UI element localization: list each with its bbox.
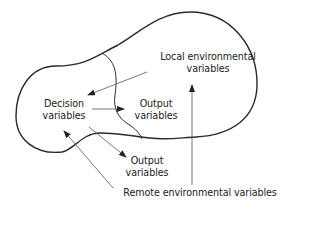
decision-line2: variables	[36, 110, 92, 122]
output-1-line2: variables	[128, 110, 184, 122]
remote-env-label: Remote environmental variables	[114, 187, 286, 199]
output-1-label: Output variables	[128, 98, 184, 122]
output-2-label: Output variables	[119, 155, 175, 179]
output-2-line2: variables	[119, 167, 175, 179]
subsystem-divider	[102, 53, 142, 139]
decision-line1: Decision	[36, 98, 92, 110]
local-env-line1: Local environmental	[148, 51, 268, 63]
local-env-label: Local environmental variables	[148, 51, 268, 75]
arrow-local-to-decision	[88, 72, 147, 95]
local-env-line2: variables	[148, 63, 268, 75]
arrow-remote-to-decision	[64, 131, 113, 188]
arrow-decision-to-output-2	[89, 127, 126, 157]
output-1-line1: Output	[128, 98, 184, 110]
decision-label: Decision variables	[36, 98, 92, 122]
output-2-line1: Output	[119, 155, 175, 167]
